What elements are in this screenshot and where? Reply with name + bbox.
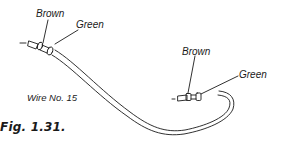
right-wire-end (172, 56, 238, 101)
figure-caption: Fig. 1.31. (0, 121, 66, 133)
wire-tube (52, 50, 234, 135)
wire-diagram-figure: Brown Green Brown Green Wire No. 15 Fig.… (0, 0, 282, 150)
left-green-leader (55, 30, 78, 44)
wire-number-label: Wire No. 15 (27, 93, 77, 103)
right-brown-label: Brown (182, 47, 210, 57)
right-brown-leader (188, 56, 195, 93)
left-brown-label: Brown (36, 9, 64, 19)
left-green-label: Green (76, 20, 104, 30)
left-wire-end (20, 20, 78, 56)
right-green-label: Green (239, 70, 267, 80)
left-brown-leader (43, 20, 48, 43)
